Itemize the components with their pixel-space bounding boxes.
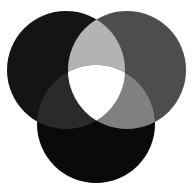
venn-diagram-svg bbox=[0, 0, 193, 188]
venn-diagram-figure bbox=[0, 0, 193, 188]
